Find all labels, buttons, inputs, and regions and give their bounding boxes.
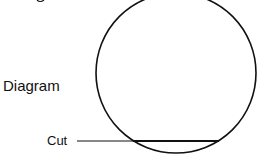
circle-shape: [96, 0, 256, 153]
diagram-title-label: Diagram: [3, 78, 60, 93]
partial-descender-glyph: [37, 0, 44, 2]
cut-label: Cut: [47, 134, 67, 147]
